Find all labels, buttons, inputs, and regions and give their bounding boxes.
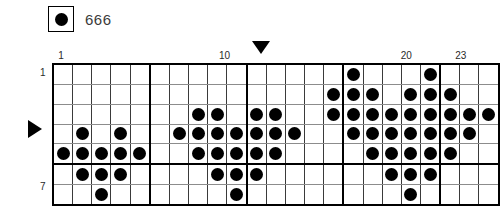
chart-cell[interactable] [53,64,73,84]
chart-cell[interactable] [305,104,324,124]
chart-cell[interactable] [401,124,420,144]
chart-cell[interactable] [73,185,92,205]
chart-cell[interactable] [130,144,150,164]
chart-cell[interactable] [53,144,73,164]
chart-cell[interactable] [343,104,363,124]
chart-cell[interactable] [189,124,208,144]
chart-cell[interactable] [479,64,499,84]
chart-cell[interactable] [53,84,73,104]
chart-cell[interactable] [266,104,285,124]
chart-cell[interactable] [208,64,227,84]
chart-cell[interactable] [324,64,344,84]
chart-cell[interactable] [266,164,285,184]
chart-cell[interactable] [479,185,499,205]
chart-cell[interactable] [305,64,324,84]
chart-cell[interactable] [247,84,267,104]
chart-cell[interactable] [53,185,73,205]
chart-cell[interactable] [92,124,111,144]
chart-cell[interactable] [440,84,460,104]
chart-cell[interactable] [285,124,304,144]
chart-cell[interactable] [382,144,401,164]
chart-cell[interactable] [285,84,304,104]
chart-cell[interactable] [53,104,73,124]
chart-cell[interactable] [73,84,92,104]
chart-cell[interactable] [247,104,267,124]
chart-cell[interactable] [401,104,420,124]
chart-grid[interactable] [52,63,500,206]
chart-cell[interactable] [460,64,479,84]
chart-cell[interactable] [111,124,130,144]
chart-cell[interactable] [343,124,363,144]
chart-cell[interactable] [150,84,170,104]
chart-cell[interactable] [150,124,170,144]
chart-cell[interactable] [227,164,247,184]
chart-cell[interactable] [440,144,460,164]
chart-cell[interactable] [382,104,401,124]
chart-cell[interactable] [363,64,382,84]
chart-cell[interactable] [130,164,150,184]
chart-cell[interactable] [305,185,324,205]
chart-cell[interactable] [285,64,304,84]
chart-cell[interactable] [227,64,247,84]
chart-cell[interactable] [305,164,324,184]
chart-cell[interactable] [92,64,111,84]
chart-cell[interactable] [227,104,247,124]
chart-cell[interactable] [460,164,479,184]
chart-cell[interactable] [479,84,499,104]
chart-cell[interactable] [208,104,227,124]
chart-cell[interactable] [247,164,267,184]
chart-cell[interactable] [401,144,420,164]
chart-cell[interactable] [247,144,267,164]
chart-cell[interactable] [382,84,401,104]
chart-cell[interactable] [227,124,247,144]
chart-cell[interactable] [73,104,92,124]
chart-cell[interactable] [169,144,188,164]
chart-cell[interactable] [363,124,382,144]
chart-cell[interactable] [363,84,382,104]
chart-cell[interactable] [420,104,440,124]
chart-cell[interactable] [401,164,420,184]
chart-cell[interactable] [169,124,188,144]
chart-cell[interactable] [324,124,344,144]
chart-cell[interactable] [266,185,285,205]
chart-cell[interactable] [479,164,499,184]
chart-cell[interactable] [460,84,479,104]
chart-cell[interactable] [111,164,130,184]
chart-cell[interactable] [73,144,92,164]
chart-cell[interactable] [111,185,130,205]
chart-cell[interactable] [130,185,150,205]
chart-cell[interactable] [401,185,420,205]
chart-cell[interactable] [92,104,111,124]
chart-cell[interactable] [285,164,304,184]
chart-cell[interactable] [343,144,363,164]
chart-cell[interactable] [266,144,285,164]
chart-cell[interactable] [382,124,401,144]
chart-cell[interactable] [92,84,111,104]
chart-cell[interactable] [130,84,150,104]
chart-cell[interactable] [460,144,479,164]
chart-cell[interactable] [382,164,401,184]
chart-cell[interactable] [460,185,479,205]
chart-cell[interactable] [169,164,188,184]
chart-cell[interactable] [285,185,304,205]
chart-cell[interactable] [169,104,188,124]
chart-cell[interactable] [53,164,73,184]
chart-cell[interactable] [169,84,188,104]
chart-cell[interactable] [382,185,401,205]
chart-cell[interactable] [479,124,499,144]
chart-cell[interactable] [420,84,440,104]
chart-cell[interactable] [479,104,499,124]
chart-cell[interactable] [440,185,460,205]
chart-cell[interactable] [440,164,460,184]
chart-cell[interactable] [130,124,150,144]
chart-cell[interactable] [440,124,460,144]
chart-cell[interactable] [305,84,324,104]
chart-cell[interactable] [363,104,382,124]
chart-cell[interactable] [111,84,130,104]
chart-cell[interactable] [343,84,363,104]
chart-cell[interactable] [285,104,304,124]
chart-cell[interactable] [324,164,344,184]
chart-cell[interactable] [420,144,440,164]
chart-cell[interactable] [208,144,227,164]
chart-cell[interactable] [266,124,285,144]
